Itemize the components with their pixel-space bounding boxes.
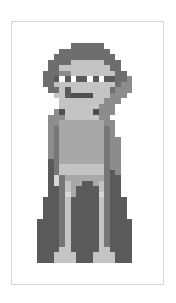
pixel-art-figure xyxy=(37,43,138,263)
pixel xyxy=(132,258,138,264)
